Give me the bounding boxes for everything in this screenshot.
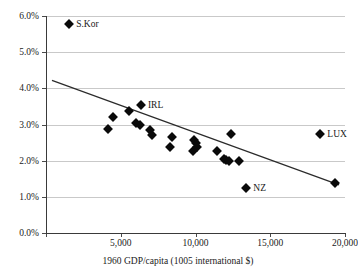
plot-area: S.KorIRLNZLUX — [46, 16, 345, 233]
trendline — [46, 16, 345, 233]
chart-title-clipped: Convergence: growth vs. initial GDP/capi… — [0, 0, 356, 2]
y-tick-label: 4.0% — [19, 83, 39, 93]
x-axis-line — [46, 233, 346, 234]
y-tick-label: 6.0% — [19, 11, 39, 21]
x-tick-label: 20,000 — [332, 238, 358, 248]
data-point-label: NZ — [253, 183, 266, 193]
data-point-label: LUX — [327, 129, 347, 139]
y-tick-label: 2.0% — [19, 156, 39, 166]
y-tick-label: 0.0% — [19, 228, 39, 238]
x-tick-label: 10,000 — [182, 238, 208, 248]
y-tick-label: 3.0% — [19, 120, 39, 130]
y-tick-label: 1.0% — [19, 192, 39, 202]
y-tick-label: 5.0% — [19, 47, 39, 57]
trendline-segment — [52, 80, 339, 185]
data-point-label: S.Kor — [76, 19, 98, 29]
data-point-label: IRL — [148, 100, 163, 110]
y-axis-line — [46, 16, 47, 234]
x-axis-title: 1960 GDP/capita (1005 international $) — [0, 256, 356, 266]
x-tick-label: 5,000 — [110, 238, 131, 248]
x-tick-label: 15,000 — [257, 238, 283, 248]
